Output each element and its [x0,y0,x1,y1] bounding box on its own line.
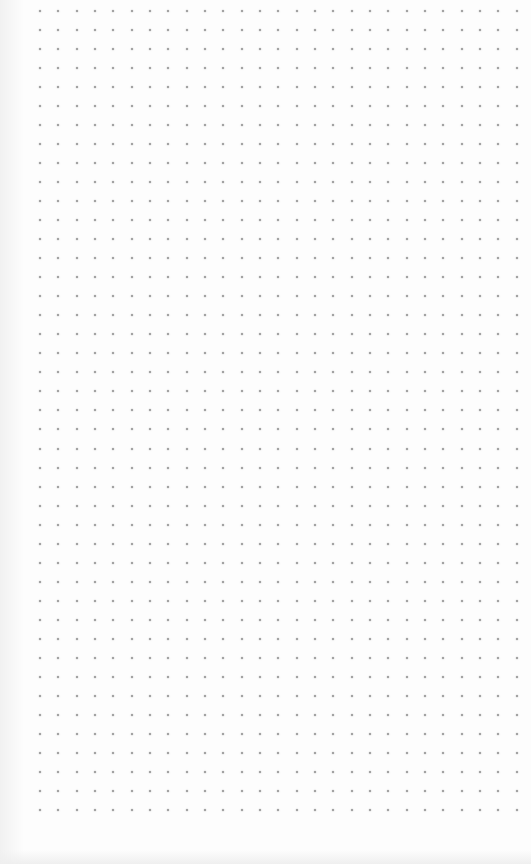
grid-dot [39,276,41,278]
grid-dot [94,371,96,373]
grid-dot [241,505,243,507]
grid-dot [387,86,389,88]
grid-dot [497,486,499,488]
grid-dot [57,200,59,202]
grid-dot [351,238,353,240]
grid-dot [369,676,371,678]
grid-dot [39,428,41,430]
grid-dot [241,543,243,545]
grid-dot [332,505,334,507]
grid-dot [259,143,261,145]
grid-dot [241,676,243,678]
grid-dot [369,105,371,107]
grid-dot [241,619,243,621]
grid-dot [424,657,426,659]
grid-dot [76,581,78,583]
grid-dot [167,657,169,659]
grid-dot [369,600,371,602]
grid-dot [296,124,298,126]
grid-dot [76,143,78,145]
grid-dot [131,371,133,373]
grid-dot [296,676,298,678]
grid-dot [516,752,518,754]
grid-dot [387,200,389,202]
grid-dot [387,505,389,507]
grid-dot [94,333,96,335]
grid-dot [222,371,224,373]
grid-dot [94,543,96,545]
grid-dot [112,409,114,411]
grid-dot [479,619,481,621]
grid-dot [131,124,133,126]
grid-dot [222,486,224,488]
grid-dot [259,333,261,335]
grid-dot [442,428,444,430]
grid-dot [259,390,261,392]
grid-dot [131,505,133,507]
grid-dot [479,333,481,335]
grid-dot [442,48,444,50]
grid-dot [204,676,206,678]
grid-dot [186,657,188,659]
grid-dot [296,790,298,792]
grid-dot [277,676,279,678]
grid-dot [516,67,518,69]
grid-dot [314,467,316,469]
grid-dot [479,219,481,221]
grid-dot [39,143,41,145]
grid-dot [516,505,518,507]
grid-dot [76,409,78,411]
grid-dot [461,562,463,564]
grid-dot [131,543,133,545]
grid-dot [186,448,188,450]
grid-dot [296,48,298,50]
grid-dot [369,771,371,773]
grid-dot [479,428,481,430]
grid-dot [186,638,188,640]
grid-dot [57,809,59,811]
grid-dot [167,714,169,716]
grid-dot [259,790,261,792]
grid-dot [351,105,353,107]
grid-dot [369,467,371,469]
grid-dot [497,562,499,564]
grid-dot [461,524,463,526]
grid-dot [314,390,316,392]
grid-dot [76,371,78,373]
grid-dot [259,771,261,773]
grid-dot [351,657,353,659]
grid-dot [461,486,463,488]
grid-dot [296,390,298,392]
grid-dot [186,600,188,602]
grid-dot [241,105,243,107]
grid-dot [39,714,41,716]
grid-dot [387,752,389,754]
grid-dot [241,562,243,564]
grid-dot [149,581,151,583]
grid-dot [424,86,426,88]
grid-dot [259,467,261,469]
grid-dot [351,486,353,488]
grid-dot [332,48,334,50]
grid-dot [204,790,206,792]
grid-dot [497,581,499,583]
grid-dot [167,428,169,430]
grid-dot [204,143,206,145]
grid-dot [296,505,298,507]
grid-dot [76,10,78,12]
grid-dot [57,448,59,450]
grid-dot [241,695,243,697]
grid-dot [387,29,389,31]
grid-dot [39,467,41,469]
grid-dot [57,29,59,31]
grid-dot [332,390,334,392]
grid-dot [131,105,133,107]
grid-dot [387,10,389,12]
grid-dot [351,714,353,716]
grid-dot [314,543,316,545]
grid-dot [351,295,353,297]
grid-dot [424,771,426,773]
grid-dot [442,200,444,202]
grid-dot [76,448,78,450]
grid-dot [387,581,389,583]
